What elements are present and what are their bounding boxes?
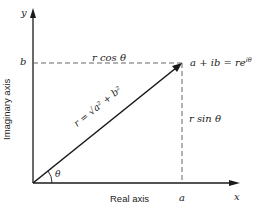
r-sin-theta-label: r sin θ bbox=[189, 114, 221, 124]
tick-label-b: b bbox=[20, 57, 26, 67]
angle-label: θ bbox=[55, 170, 60, 179]
y-symbol: y bbox=[21, 8, 27, 18]
point-label-text: a + ib = re bbox=[190, 57, 246, 68]
tick-label-a: a bbox=[179, 193, 185, 203]
r-cos-theta-label: r cos θ bbox=[92, 53, 126, 63]
real-axis-label: Real axis bbox=[110, 194, 149, 204]
point-label-exponent: iθ bbox=[246, 56, 252, 64]
diagram-graphics bbox=[0, 0, 256, 214]
complex-plane-diagram: y b a x r cos θ r sin θ a + ib = reiθ r … bbox=[0, 0, 256, 214]
imaginary-axis-label: Imaginary axis bbox=[2, 79, 12, 140]
x-symbol: x bbox=[234, 192, 240, 202]
point-label: a + ib = reiθ bbox=[190, 57, 252, 68]
y-axis-arrow-icon bbox=[30, 8, 36, 18]
angle-arc bbox=[48, 171, 52, 183]
radius-vector bbox=[33, 68, 176, 183]
x-axis-arrow-icon bbox=[229, 180, 240, 186]
